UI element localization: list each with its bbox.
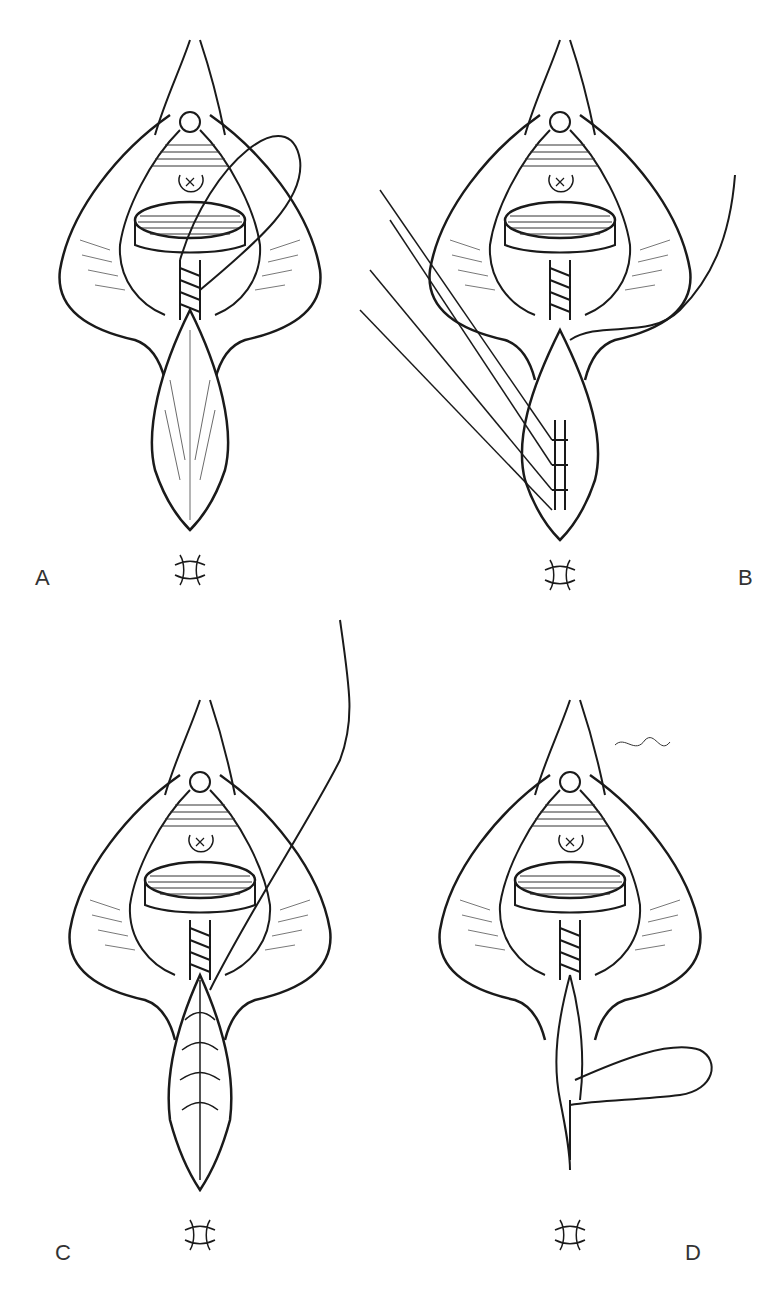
panel-a: A <box>40 40 340 580</box>
panel-d: D <box>420 680 760 1260</box>
illustration-c <box>50 680 370 1260</box>
illustration-a <box>40 40 340 580</box>
panel-label-a: A <box>35 565 50 591</box>
panel-b: B <box>380 40 780 580</box>
panel-label-b: B <box>738 565 753 591</box>
illustration-d <box>420 680 760 1260</box>
illustration-b <box>380 40 780 580</box>
panel-label-c: C <box>55 1240 71 1266</box>
panel-label-d: D <box>685 1240 701 1266</box>
panel-c: C <box>50 680 370 1260</box>
